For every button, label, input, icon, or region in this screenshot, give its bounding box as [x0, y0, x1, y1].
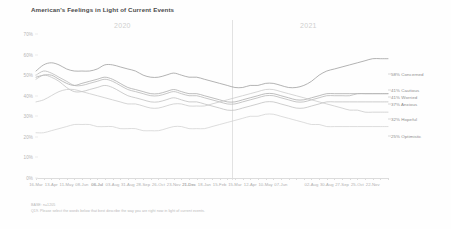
series-line-hopeful — [36, 89, 388, 112]
x-axis-tick-mark — [97, 178, 98, 180]
legend-leader-line — [388, 74, 391, 75]
x-axis-tick-label: 15-Mar — [228, 182, 242, 187]
x-axis-tick-label: 23-Nov — [167, 182, 181, 187]
x-axis-tick-mark — [189, 178, 190, 180]
page-title: American's Feelings in Light of Current … — [31, 6, 174, 13]
y-axis-tick-mark — [35, 157, 38, 158]
x-axis-tick-mark — [105, 178, 106, 180]
x-axis-tick-mark — [74, 178, 75, 180]
x-axis-tick-label: 12-Apr — [244, 182, 257, 187]
x-axis-tick-label: 25-Oct — [351, 182, 364, 187]
x-axis-tick-mark — [266, 178, 267, 180]
x-axis-tick-mark — [342, 178, 343, 180]
x-axis-tick-mark — [166, 178, 167, 180]
series-line-cautious — [36, 75, 388, 102]
year-band: 2020 2021 — [36, 21, 388, 34]
y-axis-tick-label: 10% — [24, 155, 34, 160]
series-line-concerned — [36, 59, 388, 88]
x-axis-tick-mark — [135, 178, 136, 180]
y-axis-tick-label: 60% — [24, 52, 34, 57]
y-axis-tick-label: 20% — [24, 134, 34, 139]
y-axis-tick-label: 0% — [26, 176, 33, 181]
x-axis-tick-mark — [334, 178, 335, 180]
legend-leader-line — [388, 104, 391, 105]
y-axis-tick-label: 50% — [24, 73, 34, 78]
x-axis-tick-mark — [373, 178, 374, 180]
series-line-worried — [36, 71, 388, 104]
y-axis-tick-mark — [35, 136, 38, 137]
x-axis-tick-label: 10-May — [258, 182, 272, 187]
legend-item-optimistic: 25% Optimistic — [391, 134, 421, 139]
x-axis-tick-mark — [319, 178, 320, 180]
x-axis-tick-mark — [151, 178, 152, 180]
x-axis-tick-mark — [120, 178, 121, 180]
x-axis-tick-mark — [212, 178, 213, 180]
x-axis-tick-mark — [388, 178, 389, 180]
x-axis-tick-mark — [311, 178, 312, 180]
x-axis-tick-mark — [174, 178, 175, 180]
y-axis: 0%10%20%30%40%50%60%70% — [0, 0, 36, 229]
y-axis-tick-label: 70% — [24, 32, 34, 37]
legend-leader-line — [388, 90, 391, 91]
x-axis-tick-label: 15-Feb — [213, 182, 227, 187]
legend-item-concerned: 58% Concerned — [391, 72, 424, 77]
x-axis-tick-mark — [158, 178, 159, 180]
x-axis-tick-mark — [59, 178, 60, 180]
x-axis-tick-mark — [227, 178, 228, 180]
legend: 58% Concerned41% Cautious41% Worried37% … — [391, 0, 451, 229]
x-axis-tick-mark — [365, 178, 366, 180]
x-axis-tick-mark — [113, 178, 114, 180]
y-axis-tick-label: 30% — [24, 114, 34, 119]
x-axis-tick-label: 26-Oct — [152, 182, 165, 187]
x-axis-tick-mark — [67, 178, 68, 180]
x-axis-tick-mark — [44, 178, 45, 180]
legend-leader-line — [388, 97, 391, 98]
x-axis-tick-mark — [181, 178, 182, 180]
x-axis-tick-label: 31-Aug — [121, 182, 135, 187]
x-axis-tick-mark — [281, 178, 282, 180]
legend-leader-line — [388, 136, 391, 137]
x-axis-tick-label: 02-Aug — [305, 182, 319, 187]
legend-item-hopeful: 32% Hopeful — [391, 117, 417, 122]
x-axis-tick-label: 30-Aug — [320, 182, 334, 187]
x-axis-tick-label: 21-Dec — [182, 182, 196, 187]
year-divider — [232, 20, 233, 180]
x-axis-tick-mark — [350, 178, 351, 180]
footnote-question: Q19. Please select the words below that … — [31, 209, 205, 213]
y-axis-tick-mark — [35, 34, 38, 35]
x-axis-tick-mark — [258, 178, 259, 180]
x-axis-tick-mark — [304, 178, 305, 180]
x-axis-tick-mark — [380, 178, 381, 180]
year-label-2020: 2020 — [114, 22, 131, 29]
x-axis-tick-label: 28-Sep — [136, 182, 150, 187]
x-axis-tick-mark — [327, 178, 328, 180]
x-axis-tick-mark — [250, 178, 251, 180]
x-axis-tick-mark — [128, 178, 129, 180]
legend-item-anxious: 37% Anxious — [391, 102, 417, 107]
x-axis-tick-mark — [289, 178, 290, 180]
x-axis-tick-mark — [204, 178, 205, 180]
series-lines — [0, 0, 451, 229]
x-axis-tick-label: 03-Aug — [106, 182, 120, 187]
x-axis-tick-label: 27-Sep — [335, 182, 349, 187]
x-axis-tick-mark — [197, 178, 198, 180]
x-axis-tick-mark — [273, 178, 274, 180]
legend-item-cautious: 41% Cautious — [391, 88, 419, 93]
legend-item-worried: 41% Worried — [391, 95, 417, 100]
y-axis-tick-mark — [35, 178, 38, 179]
series-line-anxious — [36, 75, 388, 110]
x-axis-tick-mark — [357, 178, 358, 180]
y-axis-tick-mark — [35, 54, 38, 55]
y-axis-tick-mark — [35, 116, 38, 117]
y-axis-tick-mark — [35, 75, 38, 76]
x-axis-tick-label: 07-Jun — [274, 182, 287, 187]
x-axis-tick-mark — [82, 178, 83, 180]
x-axis-tick-mark — [90, 178, 91, 180]
y-axis-tick-label: 40% — [24, 93, 34, 98]
footnote-base: BASE: n=1205 — [31, 203, 55, 207]
x-axis-tick-label: 06-Jul — [91, 182, 103, 187]
x-axis-tick-mark — [143, 178, 144, 180]
x-axis-tick-mark — [296, 178, 297, 180]
x-axis-tick-mark — [51, 178, 52, 180]
x-axis-tick-mark — [220, 178, 221, 180]
